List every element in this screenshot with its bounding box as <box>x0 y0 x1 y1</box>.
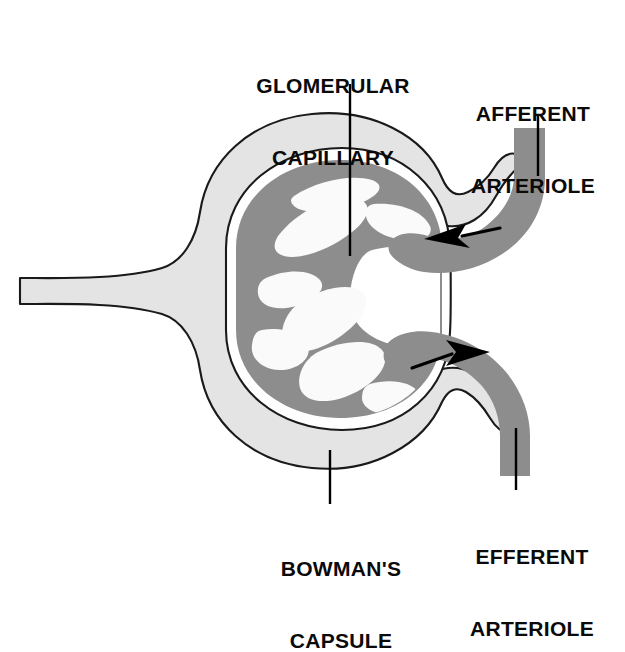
label-efferent-arteriole-line2: ARTERIOLE <box>446 617 618 641</box>
label-glomerular-capillary: GLOMERULAR CAPILLARY <box>240 26 426 218</box>
label-afferent-arteriole-line1: AFFERENT <box>448 102 618 126</box>
label-bowmans-capsule-line2: CAPSULE <box>248 629 434 652</box>
label-efferent-arteriole: EFFERENT ARTERIOLE <box>446 497 618 652</box>
label-glomerular-capillary-line1: GLOMERULAR <box>240 74 426 98</box>
label-glomerular-capillary-line2: CAPILLARY <box>240 146 426 170</box>
label-efferent-arteriole-line1: EFFERENT <box>446 545 618 569</box>
label-afferent-arteriole-line2: ARTERIOLE <box>448 174 618 198</box>
label-bowmans-capsule-line1: BOWMAN'S <box>248 557 434 581</box>
label-afferent-arteriole: AFFERENT ARTERIOLE <box>448 54 618 246</box>
label-bowmans-capsule: BOWMAN'S CAPSULE <box>248 509 434 652</box>
